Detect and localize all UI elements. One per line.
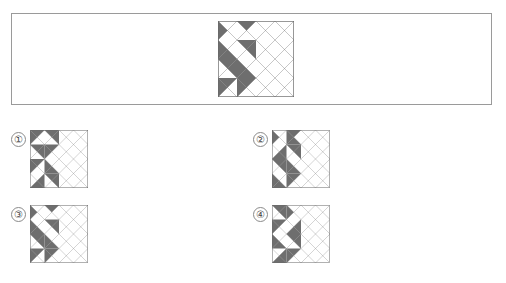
option-2-label[interactable]: ②: [253, 132, 268, 147]
prompt-pattern-figure: [218, 21, 294, 97]
option-2-pattern-figure[interactable]: [272, 130, 330, 188]
option-1-label[interactable]: ①: [11, 132, 26, 147]
option-4-pattern-figure[interactable]: [272, 205, 330, 263]
option-4-label[interactable]: ④: [253, 207, 268, 222]
prompt-frame: [11, 13, 492, 105]
question-stage: ① ② ③ ④: [0, 0, 506, 283]
option-1-pattern-figure[interactable]: [30, 130, 88, 188]
option-3-pattern-figure[interactable]: [30, 205, 88, 263]
option-3-label[interactable]: ③: [11, 207, 26, 222]
